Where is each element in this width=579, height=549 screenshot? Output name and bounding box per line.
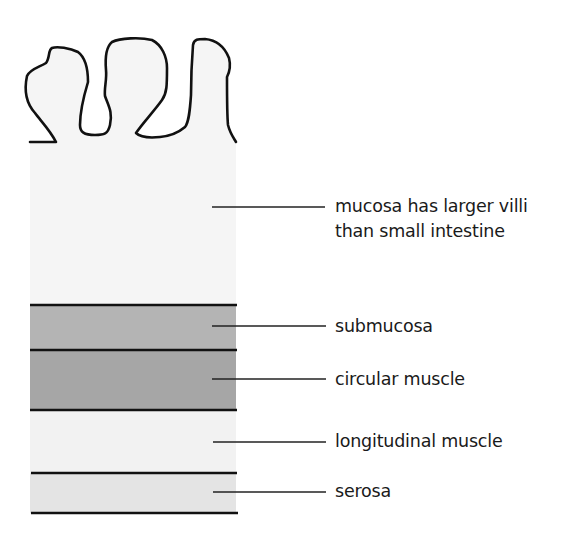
label-mucosa-line2: than small intestine <box>335 219 505 243</box>
label-submucosa: submucosa <box>335 314 433 338</box>
intestine-wall-diagram <box>0 0 579 549</box>
label-serosa: serosa <box>335 479 391 503</box>
serosa-band <box>30 473 236 513</box>
label-longitudinal-muscle: longitudinal muscle <box>335 429 503 453</box>
longitudinal-muscle-band <box>30 410 236 473</box>
label-mucosa-line1: mucosa has larger villi <box>335 194 528 218</box>
submucosa-band <box>30 305 236 350</box>
circular-muscle-band <box>30 350 236 410</box>
label-circular-muscle: circular muscle <box>335 367 465 391</box>
